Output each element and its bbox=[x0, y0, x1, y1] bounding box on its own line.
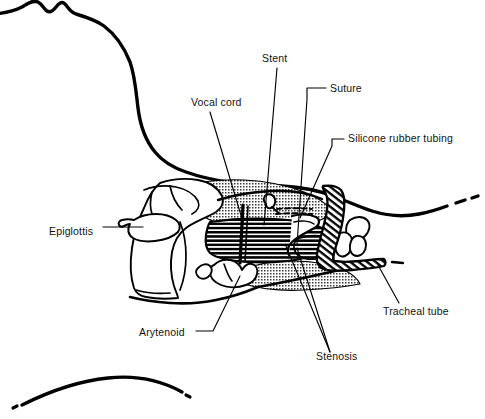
suture-stitch-row-1 bbox=[277, 208, 312, 209]
label-silicone-rubber-tubing: Silicone rubber tubing bbox=[348, 132, 453, 144]
head-profile-dash-2 bbox=[472, 196, 478, 198]
tracheal-ring-2 bbox=[350, 236, 366, 256]
label-arytenoid: Arytenoid bbox=[139, 326, 185, 338]
label-suture: Suture bbox=[330, 82, 362, 94]
anatomical-figure: Stent Suture Vocal cord Silicone rubber … bbox=[0, 0, 485, 419]
chest-arc-dash-2 bbox=[186, 395, 190, 397]
chest-arc-dash-1 bbox=[13, 406, 17, 408]
larynx-trachea-diagram: Stent Suture Vocal cord Silicone rubber … bbox=[0, 0, 485, 419]
arytenoid-cartilage bbox=[210, 260, 257, 288]
label-stent: Stent bbox=[262, 52, 287, 64]
label-vocal-cord: Vocal cord bbox=[191, 96, 242, 108]
label-tracheal-tube: Tracheal tube bbox=[383, 305, 449, 317]
label-stenosis: Stenosis bbox=[316, 350, 357, 362]
subglottic-floor-dash bbox=[392, 262, 403, 263]
label-epiglottis: Epiglottis bbox=[49, 225, 93, 237]
